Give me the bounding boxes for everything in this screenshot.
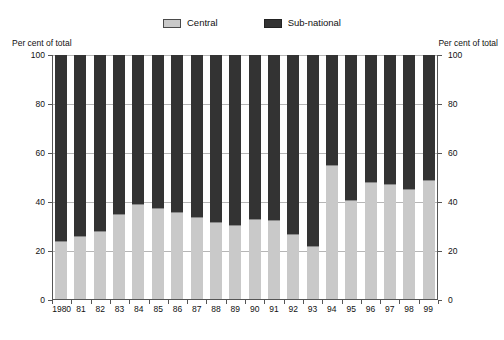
x-tick-mark-98 — [399, 300, 400, 304]
x-tick-mark-97 — [380, 300, 381, 304]
bar-segment-central — [132, 204, 144, 300]
bar-83 — [113, 55, 125, 300]
bar-segment-subnational — [171, 55, 183, 212]
y-tick-left-80: 80 — [5, 100, 45, 109]
bar-94 — [326, 55, 338, 300]
y-tick-mark-left-100 — [48, 55, 52, 56]
bar-87 — [191, 55, 203, 300]
bar-96 — [365, 55, 377, 300]
x-tick-mark-89 — [226, 300, 227, 304]
x-tick-mark-88 — [206, 300, 207, 304]
bar-99 — [423, 55, 435, 300]
bar-1980 — [55, 55, 67, 300]
bar-segment-subnational — [423, 55, 435, 180]
bar-segment-subnational — [132, 55, 144, 204]
x-tick-mark-83 — [110, 300, 111, 304]
x-tick-mark-90 — [245, 300, 246, 304]
bar-92 — [287, 55, 299, 300]
y-tick-mark-left-20 — [48, 251, 52, 252]
bar-segment-subnational — [191, 55, 203, 217]
bar-segment-subnational — [403, 55, 415, 189]
bar-segment-central — [365, 182, 377, 300]
y-tick-mark-right-20 — [438, 251, 442, 252]
bar-85 — [152, 55, 164, 300]
bar-segment-central — [249, 219, 261, 300]
bar-series-group — [52, 55, 438, 300]
bar-84 — [132, 55, 144, 300]
bar-95 — [345, 55, 357, 300]
legend-label-central: Central — [187, 18, 218, 28]
y-tick-mark-left-40 — [48, 202, 52, 203]
bar-segment-central — [171, 212, 183, 300]
bar-segment-central — [229, 225, 241, 300]
y-tick-mark-right-40 — [438, 202, 442, 203]
x-tick-mark-end — [438, 300, 439, 304]
y-tick-right-100: 100 — [448, 51, 488, 60]
bar-segment-subnational — [74, 55, 86, 236]
bar-86 — [171, 55, 183, 300]
bar-segment-central — [191, 217, 203, 300]
x-tick-mark-91 — [264, 300, 265, 304]
y-tick-mark-right-100 — [438, 55, 442, 56]
bar-segment-subnational — [113, 55, 125, 214]
bar-82 — [94, 55, 106, 300]
x-tick-mark-84 — [129, 300, 130, 304]
bar-segment-subnational — [249, 55, 261, 219]
bar-segment-subnational — [210, 55, 222, 222]
bar-segment-central — [287, 234, 299, 300]
y-tick-left-40: 40 — [5, 198, 45, 207]
y-tick-right-20: 20 — [448, 247, 488, 256]
x-tick-mark-94 — [322, 300, 323, 304]
bar-81 — [74, 55, 86, 300]
bar-segment-central — [423, 180, 435, 300]
bar-segment-central — [403, 189, 415, 300]
bar-segment-subnational — [94, 55, 106, 231]
x-tick-mark-81 — [71, 300, 72, 304]
x-tick-mark-99 — [419, 300, 420, 304]
y-tick-right-80: 80 — [448, 100, 488, 109]
bar-segment-subnational — [345, 55, 357, 200]
y-tick-left-60: 60 — [5, 149, 45, 158]
bar-90 — [249, 55, 261, 300]
bar-segment-subnational — [55, 55, 67, 241]
bar-segment-central — [384, 184, 396, 300]
x-tick-mark-95 — [342, 300, 343, 304]
legend-entry-central: Central — [163, 18, 218, 28]
x-tick-mark-86 — [168, 300, 169, 304]
bar-segment-central — [152, 208, 164, 300]
bar-segment-central — [345, 200, 357, 300]
bar-segment-central — [326, 165, 338, 300]
bar-segment-subnational — [365, 55, 377, 182]
x-tick-mark-1980 — [52, 300, 53, 304]
bar-segment-central — [55, 241, 67, 300]
x-tick-mark-87 — [187, 300, 188, 304]
bar-segment-subnational — [152, 55, 164, 208]
y-tick-right-0: 0 — [448, 296, 488, 305]
bar-segment-central — [94, 231, 106, 300]
bar-segment-central — [74, 236, 86, 300]
y-axis-caption-left: Per cent of total — [12, 38, 72, 48]
x-tick-mark-92 — [284, 300, 285, 304]
bar-segment-subnational — [384, 55, 396, 184]
y-axis-caption-right: Per cent of total — [438, 38, 498, 48]
bar-segment-central — [307, 246, 319, 300]
legend-swatch-subnational-icon — [264, 19, 282, 28]
plot-area — [52, 55, 438, 300]
chart-legend: Central Sub-national — [0, 15, 504, 31]
bar-segment-subnational — [229, 55, 241, 225]
x-tick-label-99: 99 — [414, 305, 442, 314]
y-tick-mark-left-80 — [48, 104, 52, 105]
y-tick-right-60: 60 — [448, 149, 488, 158]
y-tick-mark-right-60 — [438, 153, 442, 154]
y-tick-left-0: 0 — [5, 296, 45, 305]
bar-segment-subnational — [326, 55, 338, 165]
bar-88 — [210, 55, 222, 300]
legend-label-subnational: Sub-national — [288, 18, 341, 28]
x-tick-mark-93 — [303, 300, 304, 304]
bar-89 — [229, 55, 241, 300]
legend-swatch-central-icon — [163, 19, 181, 28]
x-tick-mark-96 — [361, 300, 362, 304]
y-tick-mark-right-80 — [438, 104, 442, 105]
y-tick-left-20: 20 — [5, 247, 45, 256]
y-tick-mark-left-60 — [48, 153, 52, 154]
